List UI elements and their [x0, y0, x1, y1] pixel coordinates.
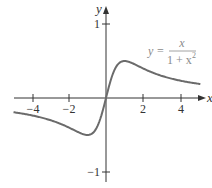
svg-text:x: x	[178, 36, 185, 50]
x-axis-arrow-icon	[198, 95, 206, 101]
function-plot: x y −4 −2 2 4 1 −1 y = x 1 + x 2	[0, 0, 212, 188]
x-tick-label: 4	[178, 102, 184, 116]
y-tick-label: −1	[87, 165, 100, 179]
y-axis-arrow-icon	[103, 6, 109, 14]
svg-text:y =: y =	[147, 44, 164, 58]
x-tick-label: −2	[63, 102, 76, 116]
y-tick-label: 1	[94, 17, 100, 31]
x-axis-label: x	[206, 90, 212, 105]
function-annotation: y = x 1 + x 2	[147, 36, 196, 67]
svg-text:2: 2	[192, 51, 196, 60]
x-tick-label: 2	[140, 102, 146, 116]
y-axis-label: y	[94, 1, 102, 16]
svg-text:1 + x: 1 + x	[167, 53, 192, 67]
